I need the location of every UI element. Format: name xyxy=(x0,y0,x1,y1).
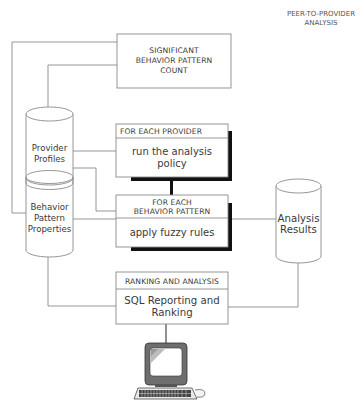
connector-results-to-ranking xyxy=(228,262,298,307)
provider-profiles-line-1: Provider xyxy=(32,143,68,153)
analysis-results-database: Analysis Results xyxy=(276,179,321,263)
provider-loop-header: FOR EACH PROVIDER xyxy=(120,127,203,136)
diagram-title: PEER-TO-PROVIDER ANALYSIS xyxy=(287,10,355,27)
count-box-line-1: SIGNIFICANT xyxy=(149,46,199,55)
behavior-loop-body: apply fuzzy rules xyxy=(130,227,215,238)
count-box-line-2: BEHAVIOR PATTERN xyxy=(136,56,213,65)
for-each-behavior-pattern-box: FOR EACH BEHAVIOR PATTERN apply fuzzy ru… xyxy=(116,195,232,251)
for-each-provider-box: FOR EACH PROVIDER run the analysis polic… xyxy=(116,124,232,181)
provider-loop-body-1: run the analysis xyxy=(132,146,212,157)
title-line-1: PEER-TO-PROVIDER xyxy=(287,10,355,18)
connector-properties-to-ranking xyxy=(48,256,116,306)
title-line-2: ANALYSIS xyxy=(304,19,338,27)
analysis-results-line-2: Results xyxy=(280,224,317,235)
provider-profiles-line-2: Profiles xyxy=(34,154,66,164)
ranking-and-analysis-box: RANKING AND ANALYSIS SQL Reporting and R… xyxy=(116,272,228,324)
connector-count-to-provider-profiles xyxy=(48,65,117,107)
behavior-loop-header-2: BEHAVIOR PATTERN xyxy=(134,207,211,216)
peer-to-provider-diagram: PEER-TO-PROVIDER ANALYSIS SIGNIFICANT BE… xyxy=(0,0,364,414)
computer-terminal-icon xyxy=(134,343,205,399)
provider-loop-body-2: policy xyxy=(157,158,187,169)
behavior-properties-line-1: Behavior xyxy=(30,202,69,212)
connector-provider-to-behavior xyxy=(170,181,173,196)
connector-profiles-to-behavior-loop xyxy=(73,168,116,211)
ranking-box-body-1: SQL Reporting and xyxy=(124,295,219,306)
significant-behavior-pattern-count-box: SIGNIFICANT BEHAVIOR PATTERN COUNT xyxy=(117,34,231,88)
behavior-loop-header-1: FOR EACH xyxy=(152,198,192,207)
behavior-properties-line-3: Properties xyxy=(28,224,72,234)
ranking-box-header: RANKING AND ANALYSIS xyxy=(125,277,219,286)
count-box-line-3: COUNT xyxy=(160,66,188,75)
behavior-properties-line-2: Pattern xyxy=(34,213,65,223)
behavior-pattern-properties-database: Behavior Pattern Properties xyxy=(26,171,73,235)
ranking-box-body-2: Ranking xyxy=(151,307,192,318)
analysis-results-line-1: Analysis xyxy=(278,213,320,224)
